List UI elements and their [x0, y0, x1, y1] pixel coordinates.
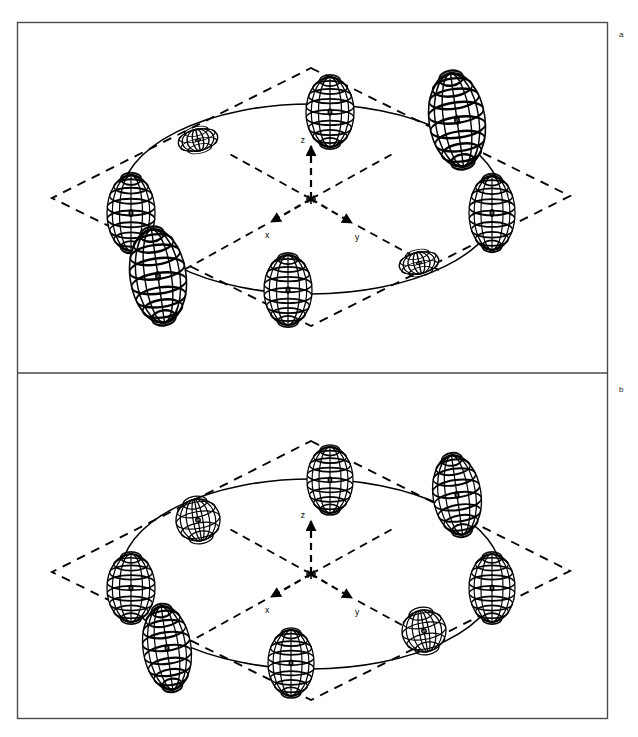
panel-a-y-label: y	[355, 232, 360, 242]
panel-label-a: a	[619, 31, 623, 39]
panel-b-x-axis	[271, 574, 311, 597]
panel-b: z x y	[52, 441, 570, 700]
ellipsoid-a-7	[264, 253, 312, 327]
panel-label-b: b	[619, 386, 623, 394]
ellipsoid-b-3	[307, 445, 353, 515]
ellipsoid-b-2	[172, 493, 224, 548]
panel-a-y-axis	[311, 199, 352, 223]
panel-b-z-label: z	[301, 510, 305, 520]
ellipsoid-a-3	[306, 75, 354, 149]
panel-a: z x y	[52, 67, 570, 329]
panel-a-x-axis	[271, 199, 311, 222]
panel-b-y-label: y	[355, 607, 360, 617]
ellipsoid-b-5	[469, 552, 515, 624]
panel-b-x-label: x	[265, 605, 270, 615]
figure-root: z x y	[0, 0, 638, 737]
panel-b-y-axis	[311, 574, 352, 598]
ellipsoid-b-1	[107, 552, 155, 624]
panel-a-axes	[180, 146, 444, 273]
ellipsoid-a-2	[176, 123, 221, 158]
ellipsoid-a-5	[469, 174, 515, 252]
figure-canvas: z x y	[0, 0, 638, 737]
panel-a-z-label: z	[301, 135, 305, 145]
ellipsoid-b-4	[427, 450, 486, 541]
ellipsoid-b-6	[398, 604, 450, 659]
ellipsoid-a-6	[397, 246, 442, 281]
ellipsoid-b-7	[268, 628, 314, 698]
panel-a-x-label: x	[265, 230, 270, 240]
